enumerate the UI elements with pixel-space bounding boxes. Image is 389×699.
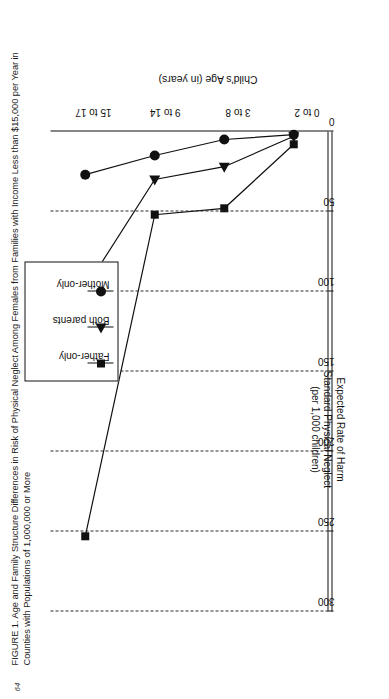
- tick-mark-300: [328, 610, 333, 611]
- legend-label-2: Both parents: [52, 314, 109, 325]
- rotated-page: 64 FIGURE 1. Age and Family Structure Di…: [0, 0, 389, 699]
- circle-marker: [149, 150, 159, 160]
- category-axis-title: Child's Age (in years): [158, 73, 257, 85]
- category-tick-label-2: 3 to 8: [225, 106, 250, 117]
- value-axis-title: Expected Rate of Harm Standard Physical …: [308, 279, 346, 579]
- value-tick-label-0: 0: [328, 116, 334, 127]
- tick-mark-0: [328, 130, 333, 131]
- legend-label-1: Father-only: [58, 350, 109, 361]
- chart-legend: Father-onlyBoth parentsMother-only: [24, 261, 118, 381]
- square-marker: [81, 532, 89, 540]
- legend-label-3: Mother-only: [56, 278, 109, 289]
- gridline-300: [50, 610, 328, 611]
- category-tick-label-3: 9 to 14: [150, 106, 181, 117]
- circle-marker: [80, 169, 90, 179]
- triangle-marker: [149, 175, 160, 185]
- circle-marker: [219, 134, 229, 144]
- category-tick-label-4: 15 to 17: [75, 106, 111, 117]
- value-axis-title-line-3: (per 1,000 children): [308, 279, 321, 579]
- legend-item-2: Both parents: [25, 303, 117, 336]
- legend-item-3: Mother-only: [25, 267, 117, 300]
- gridline-250: [50, 530, 328, 531]
- gridline-50: [50, 210, 328, 211]
- gridline-0: [50, 130, 328, 131]
- category-tick-label-1: 0 to 2: [294, 106, 319, 117]
- legend-item-1: Father-only: [25, 339, 117, 372]
- value-axis-title-line-1: Expected Rate of Harm: [333, 279, 346, 579]
- series-line-3: [85, 134, 294, 174]
- page-number: 64: [12, 682, 21, 691]
- value-tick-label-50: 50: [323, 196, 334, 207]
- value-axis-title-line-2: Standard Physical Neglect: [321, 279, 334, 579]
- tick-mark-50: [328, 210, 333, 211]
- value-tick-label-300: 300: [317, 596, 334, 607]
- gridline-200: [50, 450, 328, 451]
